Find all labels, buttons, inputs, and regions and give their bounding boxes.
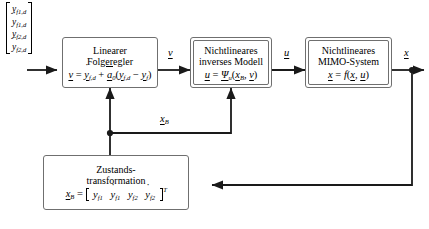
block-title-line2: inverses Modell xyxy=(199,56,263,67)
block-zustandstransformation[interactable]: Zustands- transformation xB = yf1 yf1 yf… xyxy=(43,155,189,210)
signal-label-v: v xyxy=(168,47,173,58)
junction-dot-x xyxy=(409,67,415,73)
block-nichtlineares-inverses-modell[interactable]: Nichtlineares inverses Modell u = Ψu(xB,… xyxy=(190,37,272,88)
state-entry-2: yf1 xyxy=(110,189,120,200)
block-equation: x = f(x, u) xyxy=(328,69,369,81)
block-equation: v = yf,d + a0(yf,d − yf) xyxy=(68,69,151,81)
state-entry-3: yf2 xyxy=(128,189,138,200)
block-linearer-folgeregler[interactable]: Linearer Folgeregler v = yf,d + a0(yf,d … xyxy=(62,37,158,88)
block-title-line1: Nichtlineares xyxy=(322,45,375,56)
transpose-symbol: T xyxy=(163,186,167,193)
vector-entry-2: yf1,d xyxy=(12,16,26,29)
block-diagram-canvas: yf1,d yf1,d yf2,d yf2,d xyxy=(0,0,429,229)
vector-entries: yf1,d yf1,d yf2,d yf2,d xyxy=(10,2,28,54)
block-inner-frame: Nichtlineares inverses Modell u = Ψu(xB,… xyxy=(193,40,269,85)
block-title-line1: Zustands- xyxy=(96,164,135,175)
vector-entry-4: yf2,d xyxy=(12,41,26,54)
block-title-line1: Nichtlineares xyxy=(204,45,257,56)
reference-trajectory-vector: yf1,d yf1,d yf2,d yf2,d xyxy=(6,2,32,54)
signal-label-x: x xyxy=(404,47,409,58)
block-nichtlineares-mimo-system[interactable]: Nichtlineares MIMO-System x = f(x, u) xyxy=(305,37,392,88)
state-vector-matrix: yf1 yf1 yf2 yf2 xyxy=(86,188,163,202)
block-title-line2: MIMO-System xyxy=(318,56,379,67)
block-inner-frame: Nichtlineares MIMO-System x = f(x, u) xyxy=(308,40,389,85)
block-equation: u = Ψu(xB, v) xyxy=(205,69,258,81)
block-title-line2: transformation xyxy=(87,175,146,186)
block-title-line1: Linearer xyxy=(93,45,127,56)
vector-bracket-right xyxy=(28,2,32,54)
signal-label-xB: xB xyxy=(160,113,169,124)
wire-xB-to-inverses-modell xyxy=(110,88,231,133)
state-entry-4: yf2 xyxy=(145,189,155,200)
block-equation: xB = yf1 yf1 yf2 yf2 T xyxy=(66,188,167,202)
junction-dot-xB xyxy=(107,130,113,136)
signal-label-u: u xyxy=(284,47,289,58)
state-entry-1: yf1 xyxy=(93,189,103,200)
